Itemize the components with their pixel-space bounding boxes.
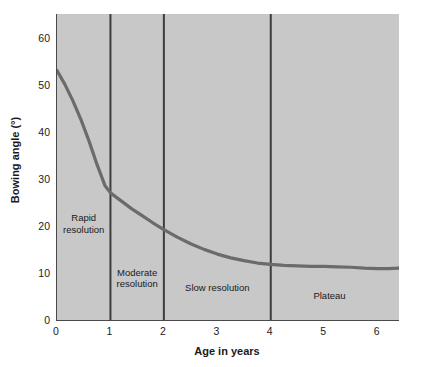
x-tick-label: 3 [201,325,231,337]
x-tick-label: 6 [362,325,392,337]
x-axis-tick-labels: 0123456 [0,325,421,341]
slow-resolution-label: Slow resolution [185,282,249,294]
y-axis-tick-labels: 0102030405060 [24,0,50,367]
y-tick-label: 40 [24,127,50,137]
x-tick-label: 1 [94,325,124,337]
y-tick-label: 10 [24,268,50,278]
x-axis-title: Age in years [56,345,398,357]
plateau-label: Plateau [313,291,345,303]
y-tick-label: 20 [24,221,50,231]
x-tick-label: 2 [148,325,178,337]
x-tick-label: 0 [41,325,71,337]
y-tick-label: 50 [24,80,50,90]
y-tick-label: 30 [24,174,50,184]
plot-svg [57,14,399,320]
chart-figure: Bowing angle (°) 0102030405060 Rapid res… [0,0,421,367]
plot-area: Rapid resolutionModerate resolutionSlow … [56,14,399,321]
rapid-resolution-label: Rapid resolution [63,212,104,235]
y-tick-label: 0 [24,315,50,325]
x-tick-label: 4 [255,325,285,337]
moderate-resolution-label: Moderate resolution [117,266,158,289]
x-tick-label: 5 [308,325,338,337]
y-tick-label: 60 [24,33,50,43]
y-axis-title: Bowing angle (°) [6,0,24,320]
bowing-angle-line [57,70,399,268]
